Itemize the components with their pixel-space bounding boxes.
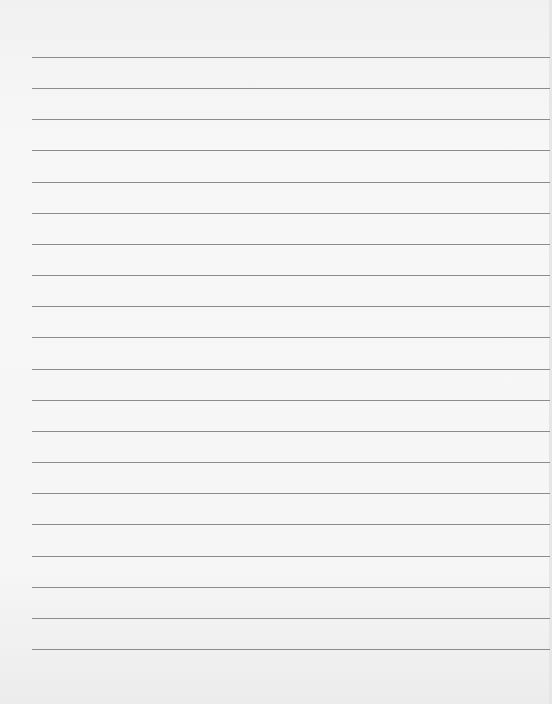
ruled-line bbox=[32, 244, 550, 245]
ruled-line bbox=[32, 493, 550, 494]
ruled-line bbox=[32, 275, 550, 276]
lined-paper-sheet bbox=[0, 0, 552, 704]
ruled-line bbox=[32, 182, 550, 183]
ruled-line bbox=[32, 587, 550, 588]
ruled-line bbox=[32, 57, 550, 58]
ruled-line bbox=[32, 431, 550, 432]
ruled-line bbox=[32, 213, 550, 214]
ruled-line bbox=[32, 618, 550, 619]
ruled-line bbox=[32, 400, 550, 401]
ruled-line bbox=[32, 524, 550, 525]
ruled-line bbox=[32, 462, 550, 463]
ruled-line bbox=[32, 119, 550, 120]
ruled-line bbox=[32, 88, 550, 89]
ruled-line bbox=[32, 369, 550, 370]
ruled-line bbox=[32, 337, 550, 338]
ruled-line bbox=[32, 649, 550, 650]
ruled-line bbox=[32, 150, 550, 151]
ruled-line bbox=[32, 306, 550, 307]
ruled-line bbox=[32, 556, 550, 557]
